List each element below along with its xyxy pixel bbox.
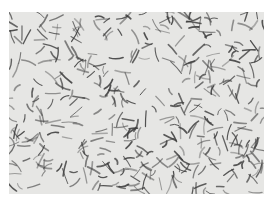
bacteria-cells	[9, 12, 264, 194]
micrograph-image	[9, 12, 264, 194]
